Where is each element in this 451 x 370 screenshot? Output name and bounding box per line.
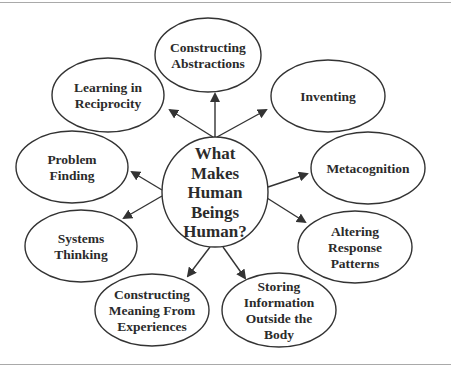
node-label-line: Problem — [47, 152, 97, 167]
concept-map: ConstructingAbstractionsLearning inRecip… — [0, 0, 451, 370]
center-label-line: What — [195, 144, 236, 163]
node-label-line: Constructing — [114, 287, 190, 302]
node-label-line: Metacognition — [326, 161, 410, 176]
center-label-line: Human? — [183, 222, 246, 241]
nodes-layer: ConstructingAbstractionsLearning inRecip… — [16, 18, 425, 347]
node-storing-information-outside-the-body: StoringInformationOutside theBody — [222, 273, 336, 347]
node-inventing: Inventing — [271, 60, 385, 132]
node-ellipse — [155, 18, 261, 92]
arrow-to-systems-thinking — [124, 196, 162, 218]
center-label-line: Human — [188, 183, 243, 202]
node-systems-thinking: SystemsThinking — [25, 210, 137, 282]
node-altering-response-patterns: AlteringResponsePatterns — [298, 211, 412, 283]
node-label-line: Response — [328, 240, 382, 255]
node-label-line: Body — [264, 327, 294, 342]
arrow-to-inventing — [217, 110, 266, 137]
node-label-line: Thinking — [54, 247, 108, 262]
node-ellipse — [52, 58, 164, 132]
node-label-line: Altering — [331, 224, 379, 239]
node-label-line: Inventing — [300, 89, 356, 104]
arrow-to-storing-information-outside-the-body — [223, 247, 245, 278]
node-learning-in-reciprocity: Learning inReciprocity — [52, 58, 164, 132]
arrow-to-metacognition — [268, 174, 307, 187]
node-label-line: Patterns — [331, 256, 380, 271]
center-label-line: Beings — [191, 203, 240, 222]
node-label-line: Meaning From — [109, 303, 196, 318]
node-label-line: Abstractions — [171, 56, 245, 71]
node-label-line: Outside the — [246, 311, 312, 326]
node-ellipse — [25, 210, 137, 282]
node-ellipse — [16, 131, 128, 203]
arrow-to-problem-finding — [132, 172, 162, 190]
node-label-line: Information — [244, 295, 315, 310]
node-metacognition: Metacognition — [311, 132, 425, 204]
node-label-line: Storing — [258, 279, 301, 294]
arrow-to-altering-response-patterns — [267, 198, 305, 222]
node-label-line: Constructing — [170, 40, 246, 55]
center-label-line: Makes — [191, 164, 240, 183]
node-problem-finding: ProblemFinding — [16, 131, 128, 203]
node-constructing-meaning-from-experiences: ConstructingMeaning FromExperiences — [95, 274, 209, 346]
node-label-line: Experiences — [117, 319, 187, 334]
center-node: WhatMakesHumanBeingsHuman? — [162, 137, 268, 247]
node-label-line: Systems — [58, 231, 105, 246]
arrow-to-learning-in-reciprocity — [170, 110, 213, 137]
arrow-to-constructing-meaning-from-experiences — [188, 247, 210, 276]
node-label-line: Learning in — [74, 80, 142, 95]
node-label-line: Reciprocity — [75, 96, 142, 111]
node-constructing-abstractions: ConstructingAbstractions — [155, 18, 261, 92]
node-label-line: Finding — [49, 168, 94, 183]
